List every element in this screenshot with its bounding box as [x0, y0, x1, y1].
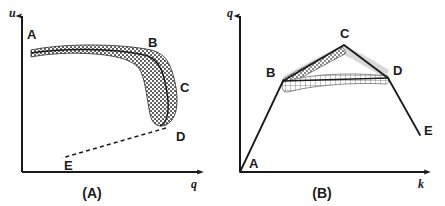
panel-b-point-label-c: C [340, 26, 350, 41]
panel-b-point-label-a: A [249, 156, 259, 171]
panel-a-y-axis-label: u [9, 6, 16, 20]
panel-b-y-axis-label: q [227, 6, 233, 20]
panel-a-dashed-segment-de [62, 128, 166, 158]
panel-b: A B C D E q k (B) [227, 6, 433, 201]
panel-b-point-label-b: B [266, 65, 275, 80]
panel-a-point-label-a: A [27, 27, 37, 42]
figure-canvas: A B C D E u q (A) A B C D E q [0, 0, 445, 206]
panel-a-x-axis-label: q [191, 177, 197, 191]
panel-a-point-label-e: E [64, 158, 73, 173]
panel-b-caption: (B) [312, 185, 331, 201]
panel-a: A B C D E u q (A) [9, 6, 198, 201]
panel-a-caption: (A) [82, 185, 101, 201]
panel-a-point-label-d: D [176, 129, 185, 144]
figure-traffic-fundamental-diagrams: A B C D E u q (A) A B C D E q [0, 0, 445, 206]
panel-b-x-axis-label: k [418, 177, 424, 191]
panel-a-point-label-b: B [148, 35, 157, 50]
panel-a-point-label-c: C [180, 80, 190, 95]
panel-a-uncertainty-band [31, 45, 177, 126]
panel-b-point-label-d: D [393, 63, 402, 78]
panel-b-point-label-e: E [424, 123, 433, 138]
